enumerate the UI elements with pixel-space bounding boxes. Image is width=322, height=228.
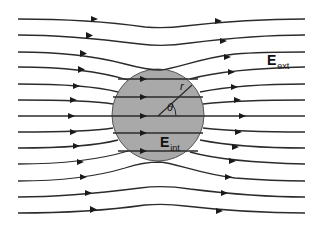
external-field-subscript: ext — [277, 61, 289, 71]
internal-field-subscript: int — [170, 143, 180, 153]
external-field-symbol: E — [267, 52, 276, 68]
radius-label: r — [180, 80, 184, 92]
internal-field-symbol: E — [160, 134, 169, 150]
external-field-label: Eext — [267, 52, 289, 68]
arrow-icons-left — [68, 16, 98, 213]
internal-field-label: Eint — [160, 134, 180, 150]
angle-label: θ — [167, 101, 173, 113]
dielectric-sphere — [112, 69, 204, 161]
field-diagram — [0, 0, 322, 228]
